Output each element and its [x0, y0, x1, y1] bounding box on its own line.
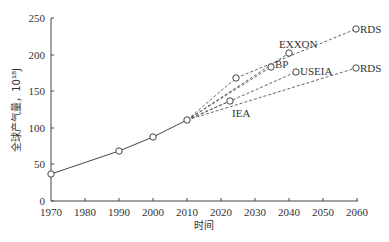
- x-axis-title: 时间: [194, 219, 214, 231]
- point-iea: [227, 98, 233, 104]
- x-tick-label: 2060: [346, 206, 369, 218]
- point-exxon: [286, 50, 292, 56]
- label-rds-high: RDS: [360, 23, 381, 35]
- y-axis-title: 全球产气量，10¹⁸J: [10, 68, 22, 152]
- label-bp: BP: [275, 58, 288, 70]
- x-tick-label: 2030: [244, 206, 267, 218]
- x-tick-label: 2050: [312, 206, 335, 218]
- y-tick-label: 250: [29, 12, 46, 24]
- x-tick-label: 2010: [176, 206, 199, 218]
- point-1970: [48, 171, 54, 177]
- point-bp: [268, 64, 274, 70]
- chart: 0 50 100 150 200 250 1970 1980 1990 2000…: [0, 0, 389, 242]
- label-iea: IEA: [232, 107, 250, 119]
- point-2000: [150, 134, 156, 140]
- y-tick-label: 50: [34, 158, 46, 170]
- point-rds-low: [353, 65, 359, 71]
- y-tick-label: 100: [29, 122, 46, 134]
- y-tick-label: 150: [29, 85, 46, 97]
- label-exxon: EXXON: [279, 38, 318, 50]
- point-useia: [293, 69, 299, 75]
- point-2025: [233, 75, 239, 81]
- y-tick-label: 200: [29, 49, 46, 61]
- x-tick-label: 1970: [40, 206, 63, 218]
- label-useia: USEIA: [300, 65, 332, 77]
- x-tick-label: 1980: [74, 206, 97, 218]
- historical-line: [51, 120, 187, 174]
- x-tick-label: 2040: [278, 206, 301, 218]
- x-tick-label: 2000: [142, 206, 165, 218]
- point-1990: [116, 148, 122, 154]
- y-ticks: 0 50 100 150 200 250: [29, 12, 55, 207]
- point-rds-high: [353, 26, 359, 32]
- x-tick-label: 2020: [210, 206, 233, 218]
- x-tick-label: 1990: [108, 206, 131, 218]
- point-2010: [184, 117, 190, 123]
- bp-line: [187, 67, 271, 120]
- label-rds-low: RDS: [360, 62, 381, 74]
- iea-line: [187, 101, 230, 120]
